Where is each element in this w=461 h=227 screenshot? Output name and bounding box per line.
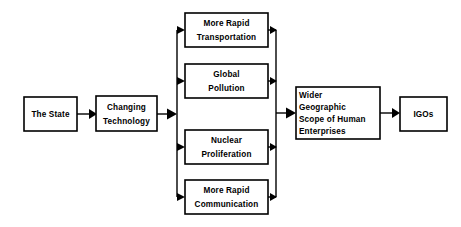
node-wider-geographic-scope-line-2: Geographic <box>299 103 346 112</box>
node-nuclear-proliferation[interactable]: Nuclear Proliferation <box>185 130 268 164</box>
edge-state-to-changing-technology <box>77 109 97 119</box>
node-nuclear-proliferation-line-2: Proliferation <box>201 150 251 159</box>
edge-left-bus-to-more-rapid-communication <box>177 193 185 201</box>
edge-wider-geographic-scope-to-igos <box>380 108 400 118</box>
node-global-pollution-line-1: Global <box>213 70 239 79</box>
node-the-state-line-1: The State <box>31 110 69 119</box>
node-wider-geographic-scope-of-human-enterprises[interactable]: Wider Geographic Scope of Human Enterpri… <box>296 87 380 139</box>
node-more-rapid-communication[interactable]: More Rapid Communication <box>185 180 268 214</box>
node-more-rapid-communication-line-2: Communication <box>195 200 259 209</box>
node-more-rapid-transportation[interactable]: More Rapid Transportation <box>185 13 268 47</box>
edge-right-bus-to-wider-geographic-scope <box>276 108 296 119</box>
edge-left-bus-to-nuclear-proliferation <box>177 143 185 151</box>
node-more-rapid-transportation-line-1: More Rapid <box>203 19 249 28</box>
node-global-pollution[interactable]: Global Pollution <box>185 64 268 98</box>
node-more-rapid-transportation-line-2: Transportation <box>197 33 256 42</box>
node-global-pollution-line-2: Pollution <box>208 84 244 93</box>
flow-diagram: The State Changing Technology More Rapid… <box>0 0 461 227</box>
node-wider-geographic-scope-line-1: Wider <box>299 91 323 100</box>
node-igos[interactable]: IGOs <box>400 97 447 131</box>
node-nuclear-proliferation-line-1: Nuclear <box>211 136 243 145</box>
edge-changing-technology-to-left-bus <box>157 109 177 120</box>
flow-diagram-canvas: The State Changing Technology More Rapid… <box>0 0 461 227</box>
node-wider-geographic-scope-line-3: Scope of Human <box>299 115 366 124</box>
node-changing-technology[interactable]: Changing Technology <box>96 96 157 131</box>
edge-left-bus-to-more-rapid-transportation <box>177 26 185 34</box>
node-the-state[interactable]: The State <box>24 97 77 131</box>
node-more-rapid-communication-line-1: More Rapid <box>203 186 249 195</box>
node-wider-geographic-scope-line-4: Enterprises <box>299 127 346 136</box>
node-igos-line-1: IGOs <box>413 110 433 119</box>
edge-left-bus-to-global-pollution <box>177 77 185 85</box>
node-changing-technology-line-1: Changing <box>107 103 146 112</box>
node-changing-technology-line-2: Technology <box>103 117 150 126</box>
